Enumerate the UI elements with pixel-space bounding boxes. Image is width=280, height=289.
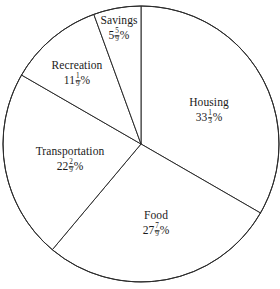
mixed-number: 2229% <box>57 159 84 174</box>
fraction-denominator: 9 <box>69 168 74 175</box>
whole-part: 11 <box>64 74 75 86</box>
pie-label-name: Savings <box>100 14 137 27</box>
whole-part: 5 <box>109 29 115 41</box>
pie-label-housing: Housing3313% <box>189 96 229 125</box>
percent-sign: % <box>74 160 84 172</box>
pie-label-transportation: Transportation2229% <box>36 145 105 174</box>
fraction-part: 59 <box>115 28 120 43</box>
pie-label-name: Food <box>143 209 170 222</box>
mixed-number: 1119% <box>64 73 90 88</box>
percent-sign: % <box>120 29 130 41</box>
whole-part: 33 <box>196 111 208 123</box>
pie-label-value: 3313% <box>189 110 229 125</box>
fraction-part: 19 <box>75 73 80 88</box>
fraction-denominator: 9 <box>75 82 80 89</box>
fraction-denominator: 3 <box>208 119 213 126</box>
pie-label-name: Transportation <box>36 145 105 158</box>
pie-chart: Housing3313%Food2779%Transportation2229%… <box>0 0 280 289</box>
fraction-denominator: 9 <box>115 37 120 44</box>
fraction-part: 29 <box>69 159 74 174</box>
fraction-part: 13 <box>208 110 213 125</box>
pie-label-value: 2779% <box>143 223 170 238</box>
pie-label-food: Food2779% <box>143 209 170 238</box>
percent-sign: % <box>80 74 90 86</box>
whole-part: 22 <box>57 160 69 172</box>
mixed-number: 559% <box>109 28 130 43</box>
whole-part: 27 <box>143 224 155 236</box>
pie-slices-group <box>3 6 279 282</box>
fraction-denominator: 9 <box>155 232 160 239</box>
percent-sign: % <box>160 224 170 236</box>
fraction-part: 79 <box>155 223 160 238</box>
pie-label-value: 2229% <box>36 159 105 174</box>
pie-label-savings: Savings559% <box>100 14 137 43</box>
mixed-number: 2779% <box>143 223 170 238</box>
pie-label-value: 1119% <box>52 73 103 88</box>
pie-label-recreation: Recreation1119% <box>52 59 103 88</box>
percent-sign: % <box>213 111 223 123</box>
mixed-number: 3313% <box>196 110 223 125</box>
pie-label-name: Housing <box>189 96 229 109</box>
pie-label-value: 559% <box>100 28 137 43</box>
pie-label-name: Recreation <box>52 59 103 72</box>
